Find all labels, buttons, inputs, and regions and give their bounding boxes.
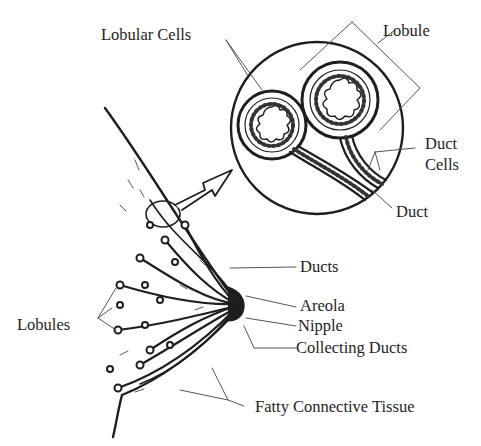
label-duct: Duct — [396, 204, 428, 221]
leader-ducts — [230, 267, 296, 268]
leader-lobules — [98, 288, 116, 330]
label-areola: Areola — [300, 298, 345, 315]
label-ducts: Ducts — [300, 259, 339, 276]
label-collecting-ducts: Collecting Ducts — [296, 340, 407, 357]
label-lobules: Lobules — [17, 317, 70, 334]
breast-anatomy-diagram: Lobular Cells Lobule Duct Cells Duct Duc… — [0, 0, 481, 446]
leader-collecting-ducts — [244, 326, 296, 348]
leader-nipple — [246, 318, 296, 326]
gland-outline — [150, 200, 228, 288]
anatomy-illustration — [0, 0, 481, 446]
label-duct-cells-line2: Cells — [425, 155, 459, 174]
label-duct-cells-line1: Duct — [425, 134, 457, 153]
label-lobule: Lobule — [383, 23, 430, 40]
leader-duct — [372, 190, 392, 208]
leader-duct-cells — [368, 148, 415, 170]
label-duct-cells: Duct Cells — [425, 134, 459, 175]
magnify-arrow — [175, 170, 232, 210]
label-lobular-cells: Lobular Cells — [101, 27, 191, 44]
label-nipple: Nipple — [298, 318, 343, 335]
label-fatty-connective-tissue: Fatty Connective Tissue — [255, 399, 415, 416]
magnified-ducts — [290, 136, 386, 200]
leader-fatty-tissue — [180, 368, 244, 406]
lobule-right — [302, 62, 378, 138]
leader-areola — [246, 296, 296, 307]
